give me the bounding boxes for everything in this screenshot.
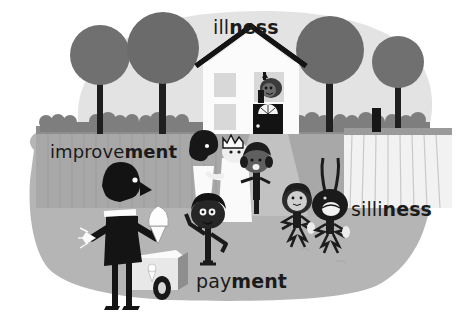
- cart-cone-scoop: [148, 264, 156, 272]
- vendor-leg-left: [112, 258, 118, 308]
- vendor-foot-left: [104, 306, 120, 310]
- label-improvement: improvement: [50, 143, 177, 161]
- tree-2-canopy: [127, 12, 199, 84]
- picket-fence-top-rail: [344, 128, 452, 135]
- vendor-torso: [106, 216, 138, 250]
- vendor-eye: [132, 177, 137, 182]
- crowned-arm: [208, 174, 222, 177]
- picket-fence-post: [372, 108, 381, 132]
- cart-side: [178, 252, 188, 290]
- label-improvement-light: improve: [50, 141, 124, 162]
- tree-4-canopy: [372, 36, 424, 88]
- label-silliness: silliness: [351, 200, 432, 219]
- label-silliness-bold: ness: [383, 198, 432, 220]
- label-illness-bold: ness: [229, 16, 278, 38]
- child-pigtails-body: [253, 172, 260, 200]
- label-illness: illness: [213, 18, 279, 37]
- label-improvement-bold: ment: [124, 141, 177, 162]
- illustration-scene: illness improvement silliness payment: [0, 0, 456, 325]
- label-illness-light: ill: [213, 16, 229, 38]
- house-window-lower-left: [214, 104, 236, 130]
- child-waving-torso: [205, 228, 211, 262]
- tree-3-canopy: [296, 16, 364, 84]
- cart-wheel-hub: [158, 282, 166, 294]
- label-payment-light: pay: [196, 270, 231, 292]
- bunny-shadow-dot: [342, 226, 350, 238]
- label-payment-bold: ment: [231, 270, 287, 292]
- tree-1-canopy: [70, 25, 130, 85]
- vendor-leg-right: [126, 258, 132, 308]
- bunny-body: [326, 220, 334, 234]
- creature-body: [293, 212, 301, 228]
- creature-shadow-dot: [307, 222, 315, 234]
- bunny-mouth: [322, 202, 340, 216]
- door-knob: [256, 124, 260, 128]
- vendor-foot-right: [122, 306, 140, 310]
- label-silliness-light: silli: [351, 198, 383, 220]
- picket-fence-panel: [344, 132, 452, 208]
- house-window-upper-left: [214, 73, 236, 97]
- adult-eye: [205, 144, 209, 148]
- label-payment: payment: [196, 272, 287, 291]
- child-pigtails-leg: [254, 196, 259, 214]
